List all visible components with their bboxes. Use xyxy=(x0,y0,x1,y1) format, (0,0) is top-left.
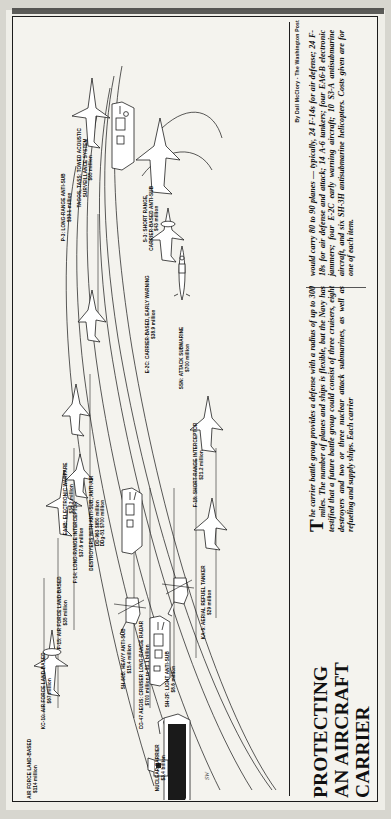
battle-group-diagram-svg xyxy=(14,18,288,800)
page-top-edge-shadow xyxy=(12,8,384,14)
diagram-label-p3: P-3: LONG-RANGE ANTI-SUB$33.1 million xyxy=(61,173,72,241)
diagram-label-f14: F-14: LONG-RANGE INTERCEPTOR$37.6 millio… xyxy=(73,501,84,583)
fighter-plane-icon xyxy=(62,384,90,436)
antisub-plane-icon xyxy=(136,118,180,194)
diagram-label-tagos: TAGOS, TASS: TOWED ACOUSTICSURVEILLANCE … xyxy=(77,93,94,243)
body-text-1: he carrier battle group provides a defen… xyxy=(308,286,355,532)
diagram-label-s3: S-3: SHORT RANGE,CARRIER-BASED ANTI-SUB$… xyxy=(143,186,160,251)
diagram-label-e2c: E-2C: CARRIER-BASED, EARLY WARNING$38.9 … xyxy=(145,275,156,373)
body-paragraph-2: would carry 80 to 90 planes — typically,… xyxy=(308,30,356,276)
surveillance-ship-icon xyxy=(112,102,134,170)
drop-cap: T xyxy=(308,517,324,532)
article-text-column: By Dall McClory - The Washington Post PR… xyxy=(292,18,378,800)
column-divider-rule xyxy=(289,22,290,796)
diagram-label-ka6: KA-6: AERIAL REFUEL TANKER$29 million xyxy=(201,565,212,639)
diagram-label-f18: F-18: SHORT-RANGE INTERCEPTOR$21.2 milli… xyxy=(193,423,204,508)
diagram-label-nuclear-carrier: NUCLEAR CARRIER$3.4 billion xyxy=(155,744,166,791)
body-paragraph-1: The carrier battle group provides a defe… xyxy=(308,286,356,532)
body-text-2: would carry 80 to 90 planes — typically,… xyxy=(308,30,355,276)
destroyer-ship-icon xyxy=(122,488,142,554)
helicopter-icon xyxy=(162,578,194,616)
diagram-label-destroyers: DESTROYERS WITH ANTI-SUB, ANTI-AIRDD-963… xyxy=(89,475,106,570)
diagram-label-f15: F-15: AIR FORCE LAND-BASED$35 million xyxy=(57,576,68,649)
diagram-label-ssn: SSN: ATTACK SUBMARINE$700 million xyxy=(179,327,190,390)
diagram-label-sh2f: SH-2F: LIGHT ANTI-SUB$8.6 million xyxy=(165,651,176,707)
diagram-label-sh60b: SH-60B: HEAVY ANTI-SUB$15.4 million xyxy=(121,628,132,689)
submarine-icon xyxy=(174,246,190,300)
diagram-label-awacs: AWACS: AIR FORCE LAND-BASED$114 million xyxy=(27,739,38,800)
fighter-plane-icon xyxy=(78,290,106,342)
artist-credit: SW xyxy=(204,772,210,780)
diagram-label-cg47: CG-47 AEGIS: CRUISER LONG-RANGE RADAR$70… xyxy=(139,621,150,730)
screenshot-root: AWACS: AIR FORCE LAND-BASED$114 million … xyxy=(0,0,391,819)
infographic-illustration: AWACS: AIR FORCE LAND-BASED$114 million … xyxy=(14,18,288,800)
diagram-label-kc10: KC-10: AIR FORCE LAND-BASED$67 million xyxy=(41,652,52,729)
diagram-label-ea6b: EA6B: ELECTRONIC WARFARE$34.2 million xyxy=(63,462,74,535)
